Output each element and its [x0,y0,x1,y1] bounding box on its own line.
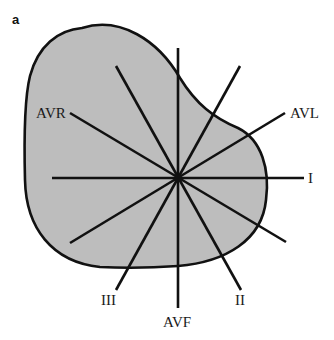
label-iii: III [101,292,116,308]
label-ii: II [235,292,245,308]
label-i: I [308,170,313,186]
hexaxial-reference-diagram: a AVR AVL I III AVF II [0,0,334,340]
label-avl: AVL [290,105,319,121]
center-point [175,175,182,182]
label-avf: AVF [163,314,191,330]
panel-label: a [12,12,20,27]
label-avr: AVR [36,105,66,121]
